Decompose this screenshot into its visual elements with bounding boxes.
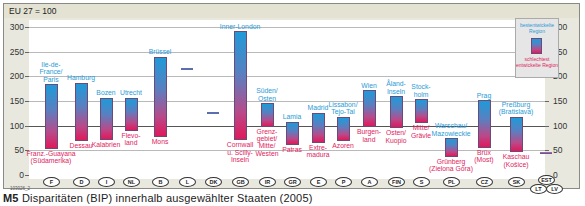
bar-gr: [286, 122, 299, 145]
y-tick-label-left: 250: [6, 47, 24, 57]
country-badge-b: B: [152, 177, 169, 187]
label-best-b: Brüssel: [130, 48, 190, 55]
y-tick-label-left: 0: [6, 170, 24, 180]
country-badge-p: P: [335, 177, 352, 187]
country-badge-lt: LT: [530, 184, 547, 194]
bar-f: [45, 84, 58, 149]
label-best-cz: Prag: [454, 92, 514, 99]
value-marker-l: [181, 68, 193, 70]
country-badge-l: L: [179, 177, 196, 187]
unit-label: EU 27 = 100: [9, 6, 57, 16]
bar-gb: [234, 31, 247, 140]
bar-b: [154, 57, 167, 137]
gridline-300: [29, 27, 545, 28]
country-badge-nl: NL: [123, 177, 140, 187]
label-worst-b: Mons: [130, 138, 190, 145]
label-worst-p: Azoren: [313, 142, 373, 149]
caption-id: M5: [3, 192, 19, 204]
country-badge-fin: FIN: [388, 177, 405, 187]
caption-text: Disparitäten (BIP) innerhalb ausgewählte…: [22, 192, 313, 204]
y-tick-label-right: 0: [553, 170, 573, 180]
tick-left-100: [25, 126, 29, 127]
value-marker-est: [540, 152, 552, 154]
figure-code: 103026_2: [10, 186, 30, 191]
y-tick-label-right: 50: [553, 145, 573, 155]
header-band: [4, 4, 579, 18]
country-badge-a: A: [361, 177, 378, 187]
legend-bottom-label: schlechtest entwickelte Region: [516, 57, 558, 68]
tick-right-100: [545, 126, 549, 127]
legend-swatch: [531, 38, 542, 54]
country-badge-e: E: [310, 177, 327, 187]
label-worst-f: Franz.-Guayana(Südamerika): [21, 150, 81, 165]
y-tick-label-left: 150: [6, 96, 24, 106]
bar-nl: [125, 98, 138, 131]
value-marker-dk: [207, 112, 219, 114]
legend: bestentwickelte Region schlechtest entwi…: [515, 18, 559, 78]
bar-a: [363, 90, 376, 127]
bar-e: [312, 113, 325, 143]
y-tick-label-left: 100: [6, 121, 24, 131]
label-best-gb: Inner-London: [210, 23, 270, 30]
tick-left-150: [25, 101, 29, 102]
country-badge-dk: DK: [205, 177, 222, 187]
label-best-ir: Süden/Osten: [237, 87, 297, 102]
country-badge-d: D: [73, 177, 90, 187]
country-badge-pl: PL: [443, 177, 460, 187]
tick-right-50: [545, 150, 549, 151]
label-worst-sk: Kaschau(Košice): [486, 153, 546, 168]
label-best-s: Stock-holm: [391, 83, 451, 98]
bar-sk: [510, 117, 523, 152]
label-best-pl: Warschau/Mazowieckie: [421, 122, 481, 137]
country-badge-ir: IR: [259, 177, 276, 187]
country-badge-lv: LV: [546, 184, 563, 194]
figure-caption: M5 Disparitäten (BIP) innerhalb ausgewäh…: [3, 192, 313, 204]
label-best-nl: Utrecht: [101, 89, 161, 96]
y-tick-label-right: 100: [553, 121, 573, 131]
country-badge-f: F: [43, 177, 60, 187]
y-tick-label-left: 300: [6, 22, 24, 32]
label-best-d: Hamburg: [51, 74, 111, 81]
country-badge-sk: SK: [508, 177, 525, 187]
country-badge-i: I: [98, 177, 115, 187]
country-badge-gb: GB: [232, 177, 249, 187]
gridline-250: [29, 52, 545, 53]
label-best-sk: Preßburg(Bratislava): [486, 101, 546, 116]
tick-left-250: [25, 52, 29, 53]
country-badge-s: S: [413, 177, 430, 187]
y-tick-label-right: 150: [553, 96, 573, 106]
tick-left-0: [25, 175, 29, 176]
tick-left-300: [25, 27, 29, 28]
country-badge-gr: GR: [284, 177, 301, 187]
bar-s: [415, 99, 428, 123]
country-badge-cz: CZ: [476, 177, 493, 187]
legend-top-label: bestentwickelte Region: [516, 23, 558, 34]
